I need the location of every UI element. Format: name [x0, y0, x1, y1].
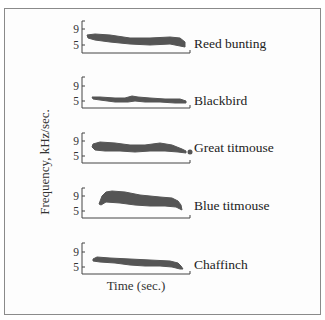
song-spectrogram: [92, 96, 186, 103]
species-label: Great titmouse: [194, 140, 274, 156]
tick-label-5: 5: [73, 261, 79, 273]
species-label: Blue titmouse: [194, 198, 269, 214]
tick-label-5: 5: [73, 95, 79, 107]
panel-blue-titmouse: [82, 188, 190, 218]
song-spectrogram: [87, 34, 185, 47]
tick-label-9: 9: [73, 23, 79, 35]
species-label: Reed bunting: [194, 36, 266, 52]
panel-chaffinch: [82, 243, 190, 274]
tick-label-9: 9: [73, 135, 79, 147]
panel-reed-bunting: [82, 21, 190, 53]
species-label: Chaffinch: [194, 257, 248, 273]
end-note-dot: [188, 150, 193, 155]
song-spectrogram: [92, 142, 186, 153]
species-label: Blackbird: [194, 93, 247, 109]
song-spectrogram: [99, 191, 182, 210]
tick-label-5: 5: [73, 39, 79, 51]
song-spectrogram: [93, 257, 183, 269]
tick-label-5: 5: [73, 205, 79, 217]
y-axis-label: Frequency, kHz/sec.: [37, 109, 53, 215]
tick-label-9: 9: [73, 190, 79, 202]
panel-blackbird: [82, 77, 190, 108]
tick-label-9: 9: [73, 80, 79, 92]
tick-label-9: 9: [73, 246, 79, 258]
x-axis-label: Time (sec.): [107, 278, 166, 294]
tick-label-5: 5: [73, 150, 79, 162]
panel-great-titmouse: [82, 133, 193, 163]
